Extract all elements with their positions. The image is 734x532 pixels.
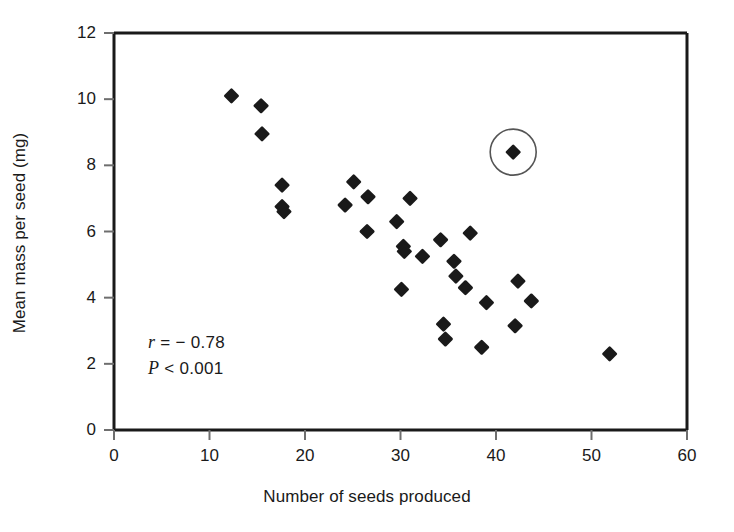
data-point bbox=[512, 275, 524, 287]
data-point bbox=[507, 146, 519, 158]
x-tick-label-50: 50 bbox=[572, 446, 612, 466]
data-point bbox=[464, 227, 476, 239]
x-tick-label-30: 30 bbox=[381, 446, 421, 466]
x-tick-label-60: 60 bbox=[667, 446, 707, 466]
data-point bbox=[339, 199, 351, 211]
x-axis-title: Number of seeds produced bbox=[0, 487, 734, 507]
y-tick-label-10: 10 bbox=[66, 89, 96, 109]
y-tick-label-4: 4 bbox=[66, 288, 96, 308]
data-point bbox=[255, 100, 267, 112]
data-point bbox=[480, 296, 492, 308]
data-point bbox=[395, 283, 407, 295]
data-point bbox=[509, 320, 521, 332]
y-tick-label-12: 12 bbox=[66, 23, 96, 43]
pvalue-annotation: P < 0.001 bbox=[148, 358, 224, 379]
y-axis-title: Mean mass per seed (mg) bbox=[10, 132, 30, 333]
y-tick-label-0: 0 bbox=[66, 420, 96, 440]
data-point bbox=[475, 341, 487, 353]
data-point bbox=[450, 270, 462, 282]
y-axis-title-wrapper: Mean mass per seed (mg) bbox=[0, 0, 40, 465]
x-tick-label-0: 0 bbox=[94, 446, 134, 466]
data-point bbox=[276, 179, 288, 191]
data-point bbox=[459, 282, 471, 294]
data-point bbox=[390, 215, 402, 227]
x-tick-label-20: 20 bbox=[285, 446, 325, 466]
data-point bbox=[525, 295, 537, 307]
r-value: = − 0.78 bbox=[155, 333, 225, 352]
y-tick-label-6: 6 bbox=[66, 222, 96, 242]
data-point bbox=[225, 90, 237, 102]
data-point bbox=[348, 176, 360, 188]
p-value: < 0.001 bbox=[159, 359, 223, 378]
x-tick-label-40: 40 bbox=[476, 446, 516, 466]
data-point bbox=[434, 234, 446, 246]
y-tick-label-8: 8 bbox=[66, 155, 96, 175]
data-point-group bbox=[225, 90, 616, 360]
x-tick-label-10: 10 bbox=[190, 446, 230, 466]
data-point bbox=[416, 250, 428, 262]
data-point bbox=[256, 128, 268, 140]
correlation-annotation: r = − 0.78 bbox=[148, 332, 225, 353]
data-point bbox=[404, 192, 416, 204]
y-tick-label-2: 2 bbox=[66, 354, 96, 374]
data-point bbox=[603, 348, 615, 360]
data-point bbox=[448, 255, 460, 267]
scatter-plot-figure: 024681012 0102030405060 Mean mass per se… bbox=[0, 0, 734, 532]
p-symbol: P bbox=[148, 358, 159, 378]
data-point bbox=[362, 191, 374, 203]
data-point bbox=[361, 225, 373, 237]
data-point bbox=[439, 333, 451, 345]
data-point bbox=[437, 318, 449, 330]
